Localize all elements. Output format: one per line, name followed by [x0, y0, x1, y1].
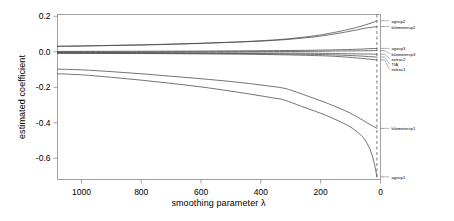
series-label-agecp1: agecp1	[392, 174, 406, 179]
series-label-kilometercp2: kilometercp2	[392, 24, 416, 29]
y-tick-label: -0.6	[0, 153, 51, 163]
x-tick-label: 800	[134, 187, 148, 197]
x-tick-label: 200	[314, 187, 328, 197]
plot-canvas	[0, 0, 454, 221]
x-tick-label: 600	[194, 187, 208, 197]
x-tick-label: 0	[378, 187, 383, 197]
y-tick-label: 0.0	[0, 47, 51, 57]
series-lines	[58, 21, 377, 177]
y-tick-label: 0.2	[0, 11, 51, 21]
x-axis-title-wrapper: smoothing parameter λ	[57, 198, 380, 208]
x-axis-tick-marks	[81, 180, 380, 184]
right-axis-tick-marks	[381, 21, 390, 177]
series-line-kilometercp1	[58, 69, 377, 128]
y-tick-label: -0.4	[0, 118, 51, 128]
y-tick-label: -0.2	[0, 82, 51, 92]
series-label-agecp2: agecp2	[392, 18, 406, 23]
series-line-agecp2	[58, 21, 377, 47]
series-line-agecp1	[58, 74, 377, 177]
series-line-kilometercp2	[58, 27, 377, 47]
coefficient-path-figure: estimated coefficient smoothing paramete…	[0, 0, 454, 221]
plot-frame	[58, 15, 381, 180]
x-axis-title: smoothing parameter λ	[171, 198, 265, 208]
x-tick-label: 1000	[72, 187, 91, 197]
series-label-kilometercp1: kilometercp1	[392, 126, 416, 131]
x-tick-label: 400	[254, 187, 268, 197]
y-axis-tick-marks	[54, 16, 58, 158]
series-label-extras1: extras1	[392, 67, 406, 72]
series-line-extras1	[58, 53, 377, 60]
